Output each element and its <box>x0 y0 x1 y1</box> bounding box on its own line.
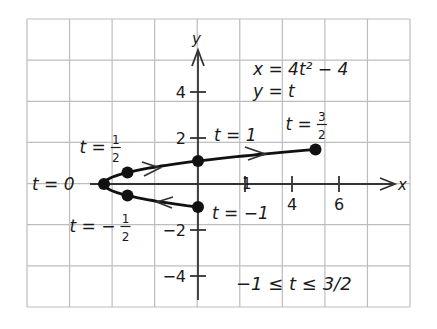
data-point <box>192 155 204 167</box>
x-axis-label: x <box>397 176 407 194</box>
x-tick-label: 4 <box>287 195 297 214</box>
point-label: t = <box>286 114 312 134</box>
fraction-numerator: 1 <box>122 212 130 226</box>
equation-y: y = t <box>252 81 296 101</box>
y-tick-label: −2 <box>162 221 186 240</box>
data-point <box>122 167 134 179</box>
axes: x y <box>90 30 407 300</box>
y-tick-label: 4 <box>176 83 186 102</box>
y-tick-label: −4 <box>162 267 186 286</box>
parameter-range: −1 ≤ t ≤ 3/2 <box>236 273 352 294</box>
point-label: t = −1 <box>212 203 269 223</box>
x-tick-label: 6 <box>334 195 344 214</box>
fraction-numerator: 1 <box>112 133 120 147</box>
data-point <box>98 178 110 190</box>
y-axis-label: y <box>191 30 202 48</box>
curve-layer <box>104 147 316 208</box>
parametric-chart: x y 4642−2−41 t = 0t =12t = −12t = 1t = … <box>0 0 437 329</box>
point-label: t = 0 <box>32 174 75 194</box>
equation-x: x = 4t² − 4 <box>252 59 348 79</box>
data-point <box>192 201 204 213</box>
fraction-numerator: 3 <box>318 110 326 124</box>
fraction-denominator: 2 <box>122 230 130 244</box>
fraction-denominator: 2 <box>112 151 120 165</box>
annotations: x = 4t² − 4 y = t −1 ≤ t ≤ 3/2 <box>236 59 352 294</box>
point-label: t = <box>80 137 106 157</box>
point-label: t = − <box>70 216 116 236</box>
y-tick-label: 2 <box>176 129 186 148</box>
data-point <box>122 190 134 202</box>
x-tick-label: 1 <box>242 175 252 193</box>
parameter-range-text: −1 ≤ t ≤ 3/2 <box>236 273 352 294</box>
point-label: t = 1 <box>214 125 257 145</box>
grid <box>27 19 410 307</box>
data-point <box>310 144 322 156</box>
curve-series <box>104 150 316 208</box>
fraction-denominator: 2 <box>318 128 326 142</box>
